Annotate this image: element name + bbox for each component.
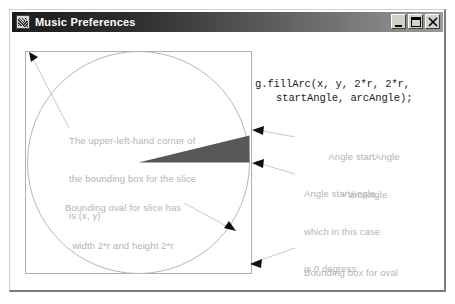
minimize-button[interactable] (391, 14, 406, 29)
music-note-icon (16, 15, 30, 29)
arrowhead-bounding-oval (224, 221, 236, 231)
maximize-button[interactable] (408, 14, 423, 29)
window-title: Music Preferences (35, 16, 136, 28)
code-line-2: startAngle, arcAngle); (255, 91, 412, 105)
page-margin-top (0, 0, 455, 9)
annotation-line: Angle startAngle, (304, 188, 380, 201)
annotation-line: The upper-left-hand corner of (69, 135, 196, 148)
code-line-1: g.fillArc(x, y, 2*r, 2*r, (255, 78, 410, 90)
annotation-line: Bounding oval for slice has (43, 202, 203, 215)
leader-line-end-angle (258, 130, 295, 137)
scanned-page: Music Preferences (0, 0, 455, 304)
annotation-line: which in this case (304, 226, 380, 239)
arrowhead-end-angle (252, 126, 264, 135)
annotation-line: Angle startAngle (304, 151, 424, 164)
application-window: Music Preferences (9, 9, 446, 292)
leader-line-start-angle (258, 163, 295, 174)
annotation-line: width 2*r and height 2*r (43, 240, 203, 253)
window-client-area: g.fillArc(x, y, 2*r, 2*r, startAngle, ar… (12, 32, 443, 289)
annotation-line: Bounding box for oval (304, 267, 398, 280)
window-controls (391, 14, 440, 29)
annotation-bounding-oval: Bounding oval for slice has width 2*r an… (43, 177, 203, 277)
window-titlebar[interactable]: Music Preferences (12, 12, 443, 32)
code-snippet: g.fillArc(x, y, 2*r, 2*r, startAngle, ar… (255, 77, 412, 105)
arrowhead-start-angle (252, 159, 264, 168)
close-button[interactable] (425, 14, 440, 29)
annotation-bounding-box: Bounding box for oval (304, 242, 398, 304)
